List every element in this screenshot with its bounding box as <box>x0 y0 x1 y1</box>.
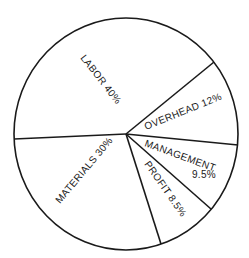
pie-chart-svg: LABOR 40% OVERHEAD 12% MANAGEMENT 9.5% P… <box>0 0 249 258</box>
pie-chart: LABOR 40% OVERHEAD 12% MANAGEMENT 9.5% P… <box>0 0 249 258</box>
slice-label-management-value: 9.5% <box>192 169 216 180</box>
